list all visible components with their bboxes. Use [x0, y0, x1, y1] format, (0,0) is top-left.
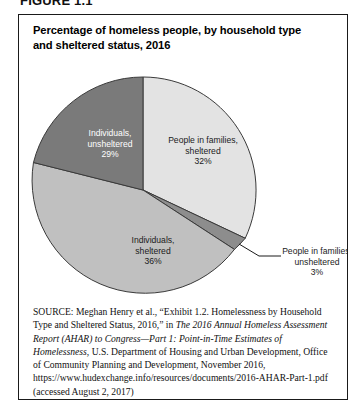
pie-label-individuals-unsheltered: Individuals, unsheltered 29% — [58, 128, 162, 160]
pie-label-families-sheltered: People in families, sheltered 32% — [150, 135, 256, 167]
source-kicker: SOURCE: — [33, 306, 74, 317]
pie-label-line2: sheltered — [150, 146, 256, 157]
pie-label-value: 29% — [58, 149, 162, 160]
pie-label-line2: unsheltered — [58, 139, 162, 150]
pie-chart: People in families, sheltered 32% Indivi… — [19, 53, 346, 303]
pie-label-value: 32% — [150, 156, 256, 167]
pie-label-value: 3% — [265, 267, 348, 278]
pie-label-line2: sheltered — [103, 246, 203, 257]
source-note: SOURCE: Meghan Henry et al., “Exhibit 1.… — [33, 305, 333, 398]
pie-label-line1: People in families, — [265, 246, 348, 257]
pie-label-line1: People in families, — [150, 135, 256, 146]
figure-box: Percentage of homeless people, by househ… — [18, 14, 348, 400]
figure-label: FIGURE 1.1 — [20, 0, 93, 8]
pie-label-line2: unsheltered — [265, 257, 348, 268]
pie-label-line1: Individuals, — [103, 235, 203, 246]
pie-label-individuals-sheltered: Individuals, sheltered 36% — [103, 235, 203, 267]
pie-label-families-unsheltered: People in families, unsheltered 3% — [265, 246, 348, 278]
pie-label-line1: Individuals, — [58, 128, 162, 139]
pie-label-value: 36% — [103, 256, 203, 267]
chart-title: Percentage of homeless people, by househ… — [33, 23, 323, 52]
